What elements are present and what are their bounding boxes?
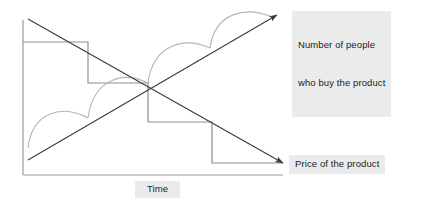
demand-arc-2 xyxy=(88,78,148,118)
price-trend-arrow xyxy=(28,19,283,163)
demand-label-line1: Number of people xyxy=(298,39,385,52)
demand-arc-3 xyxy=(148,43,210,83)
axes-group xyxy=(23,20,283,175)
time-axis-label: Time xyxy=(135,181,180,198)
price-step-series xyxy=(23,42,283,163)
demand-arcs-group xyxy=(28,12,272,148)
demand-label: Number of people who buy the product xyxy=(292,11,391,117)
diagram-canvas: Number of people who buy the product Pri… xyxy=(0,0,430,200)
price-arrow-series xyxy=(28,19,283,163)
price-label: Price of the product xyxy=(289,155,385,174)
demand-label-line2: who buy the product xyxy=(298,77,385,90)
price-step-line xyxy=(23,42,283,163)
demand-arc-4 xyxy=(210,12,272,48)
